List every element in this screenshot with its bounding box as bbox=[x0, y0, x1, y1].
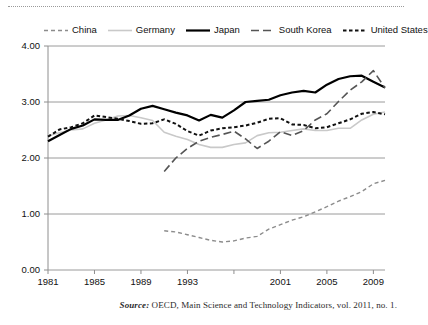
legend-swatch-germany-icon bbox=[108, 26, 132, 35]
legend-swatch-united_states-icon bbox=[343, 26, 367, 35]
legend-label-south_korea: South Korea bbox=[279, 25, 332, 35]
legend-swatch-china-icon bbox=[44, 26, 68, 35]
legend-item-germany: Germany bbox=[108, 25, 175, 35]
legend-label-united_states: United States bbox=[371, 25, 428, 35]
legend-item-south_korea: South Korea bbox=[251, 25, 332, 35]
y-axis-ticks bbox=[44, 46, 48, 270]
x-axis-ticks bbox=[48, 270, 373, 274]
x-axis-tick-labels: 1981198519891993200120052009 bbox=[37, 276, 384, 286]
x-tick-label-1989: 1989 bbox=[130, 276, 151, 286]
legend-label-germany: Germany bbox=[136, 25, 175, 35]
series-line-south-korea bbox=[164, 71, 385, 172]
y-tick-label-3.00: 3.00 bbox=[22, 96, 41, 107]
source-text: OECD, Main Science and Technology Indica… bbox=[149, 300, 397, 310]
x-tick-label-1985: 1985 bbox=[84, 276, 105, 286]
x-tick-label-2001: 2001 bbox=[270, 276, 291, 286]
y-tick-label-0.00: 0.00 bbox=[22, 264, 41, 275]
y-tick-label-4.00: 4.00 bbox=[22, 40, 41, 51]
legend-label-china: China bbox=[72, 25, 97, 35]
x-tick-label-1993: 1993 bbox=[177, 276, 198, 286]
source-caption: Source: OECD, Main Science and Technolog… bbox=[0, 300, 397, 310]
legend-swatch-south_korea-icon bbox=[251, 26, 275, 35]
data-series-group bbox=[48, 71, 385, 242]
chart-plot-area: 0.001.002.003.004.00 1981198519891993200… bbox=[0, 38, 411, 286]
y-tick-label-1.00: 1.00 bbox=[22, 208, 41, 219]
gridlines bbox=[48, 46, 385, 270]
legend-item-united_states: United States bbox=[343, 25, 428, 35]
x-tick-label-1981: 1981 bbox=[37, 276, 58, 286]
legend-label-japan: Japan bbox=[214, 25, 240, 35]
legend-swatch-japan-icon bbox=[186, 26, 210, 35]
legend-item-japan: Japan bbox=[186, 25, 240, 35]
x-tick-label-2009: 2009 bbox=[363, 276, 384, 286]
x-tick-label-2005: 2005 bbox=[316, 276, 337, 286]
chart-legend: ChinaGermanyJapanSouth KoreaUnited State… bbox=[44, 22, 404, 38]
y-axis-tick-labels: 0.001.002.003.004.00 bbox=[22, 40, 41, 275]
y-tick-label-2.00: 2.00 bbox=[22, 152, 41, 163]
source-label: Source: bbox=[120, 300, 150, 310]
top-divider-rule bbox=[8, 6, 404, 7]
series-line-china bbox=[164, 180, 385, 242]
legend-item-china: China bbox=[44, 25, 97, 35]
series-line-japan bbox=[48, 76, 385, 142]
line-chart-svg: 0.001.002.003.004.00 1981198519891993200… bbox=[0, 38, 411, 286]
